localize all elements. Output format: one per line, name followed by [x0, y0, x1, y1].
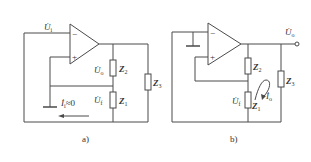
label-a-uf: U̇f [94, 95, 103, 106]
label-a-uo: U̇o [94, 65, 104, 76]
opamp-a-minus: − [72, 29, 77, 39]
label-b-z3: Z3 [285, 76, 295, 87]
wire-a-output [99, 44, 148, 122]
label-b-uf: U̇f [232, 96, 241, 107]
label-b-io: İo [265, 91, 272, 102]
label-a-ii: İi≈0 [60, 98, 76, 109]
resistor-a-z2 [110, 60, 116, 76]
circuit-b: − + U̇o U̇f Z2 Z1 Z3 İo b) [172, 23, 299, 144]
opamp-a-plus: + [72, 52, 77, 62]
resistor-b-z1 [245, 92, 251, 108]
label-a-z3: Z3 [152, 78, 162, 89]
label-a-z2: Z2 [118, 64, 128, 75]
resistor-a-z3 [145, 74, 151, 90]
opamp-b-minus: − [210, 28, 215, 38]
label-a-ui: U̇i [44, 22, 53, 33]
opamp-b-plus: + [210, 52, 215, 62]
arrow-left-icon [58, 114, 64, 118]
label-a-z1: Z1 [118, 96, 128, 107]
caption-b: b) [230, 134, 238, 144]
circuit-a: − + U̇i U̇o U̇f Z2 Z1 Z3 İi≈0 a) [24, 22, 162, 144]
resistor-a-z1 [110, 92, 116, 108]
label-b-uo: U̇o [285, 27, 295, 38]
label-b-z2: Z2 [252, 62, 262, 73]
caption-a: a) [82, 134, 89, 144]
circuit-diagram: − + U̇i U̇o U̇f Z2 Z1 Z3 İi≈0 a) − + [0, 0, 311, 162]
output-terminal [295, 42, 299, 46]
resistor-b-z3 [278, 71, 284, 87]
resistor-b-z2 [245, 58, 251, 74]
label-b-z1: Z1 [251, 101, 261, 112]
wire-b-feedback [195, 57, 248, 81]
